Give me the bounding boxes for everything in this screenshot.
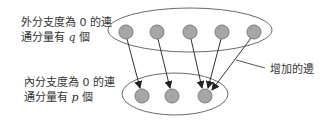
added-edges bbox=[127, 38, 251, 90]
node bbox=[119, 25, 133, 39]
out-degree-zero-label: 外分支度為 0 的連 通分量有 q 個 bbox=[21, 15, 112, 45]
out-label-text: 通分量有 bbox=[21, 31, 69, 44]
node bbox=[135, 89, 149, 103]
out-label-line2: 通分量有 q 個 bbox=[21, 30, 112, 45]
out-label-line1: 外分支度為 0 的連 bbox=[21, 15, 112, 30]
added-edge bbox=[212, 38, 251, 90]
bottom-nodes bbox=[135, 89, 212, 103]
in-label-text: 通分量有 bbox=[24, 91, 72, 104]
in-count-variable: p bbox=[72, 91, 79, 104]
edge-label-leader-line bbox=[236, 60, 265, 68]
in-label-line1: 內分支度為 0 的連 bbox=[24, 75, 115, 90]
added-edge bbox=[191, 39, 202, 88]
in-label-line2: 通分量有 p 個 bbox=[24, 90, 115, 105]
added-edges-label: 增加的邊 bbox=[270, 62, 314, 77]
node bbox=[247, 25, 261, 39]
added-edge bbox=[158, 39, 170, 88]
node bbox=[198, 89, 212, 103]
out-label-suffix: 個 bbox=[76, 31, 91, 44]
node bbox=[165, 89, 179, 103]
node bbox=[150, 25, 164, 39]
node bbox=[215, 25, 229, 39]
out-count-variable: q bbox=[69, 31, 76, 44]
in-label-suffix: 個 bbox=[79, 91, 94, 104]
in-degree-zero-label: 內分支度為 0 的連 通分量有 p 個 bbox=[24, 75, 115, 105]
top-nodes bbox=[119, 25, 261, 39]
node bbox=[183, 25, 197, 39]
